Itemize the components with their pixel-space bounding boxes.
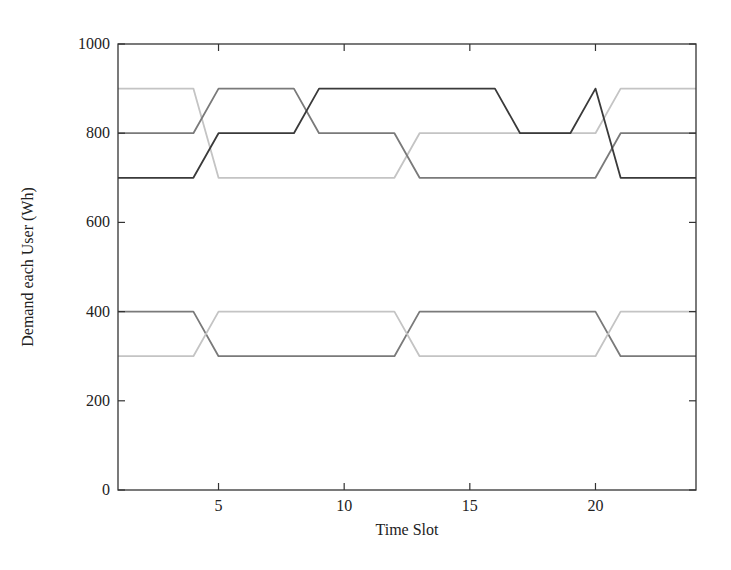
series-line-1 — [118, 89, 696, 178]
y-tick-label: 0 — [102, 481, 110, 498]
y-tick-label: 800 — [86, 124, 110, 141]
y-tick-label: 600 — [86, 213, 110, 230]
series-line-2 — [118, 89, 696, 178]
x-tick-label: 15 — [462, 497, 478, 514]
x-axis-title: Time Slot — [376, 521, 440, 538]
plot-frame — [118, 44, 696, 490]
series-line-3 — [118, 89, 696, 178]
y-tick-label: 200 — [86, 392, 110, 409]
x-axis: 5101520 — [215, 44, 604, 514]
x-tick-label: 20 — [587, 497, 603, 514]
x-tick-label: 10 — [336, 497, 352, 514]
y-tick-label: 400 — [86, 303, 110, 320]
y-axis: 02004006008001000 — [78, 35, 696, 498]
plot-lines — [118, 89, 696, 357]
x-tick-label: 5 — [215, 497, 223, 514]
y-axis-title: Demand each User (Wh) — [19, 187, 37, 346]
y-tick-label: 1000 — [78, 35, 110, 52]
series-line-5 — [118, 312, 696, 357]
line-chart: 5101520 02004006008001000 Time Slot Dema… — [0, 0, 731, 570]
